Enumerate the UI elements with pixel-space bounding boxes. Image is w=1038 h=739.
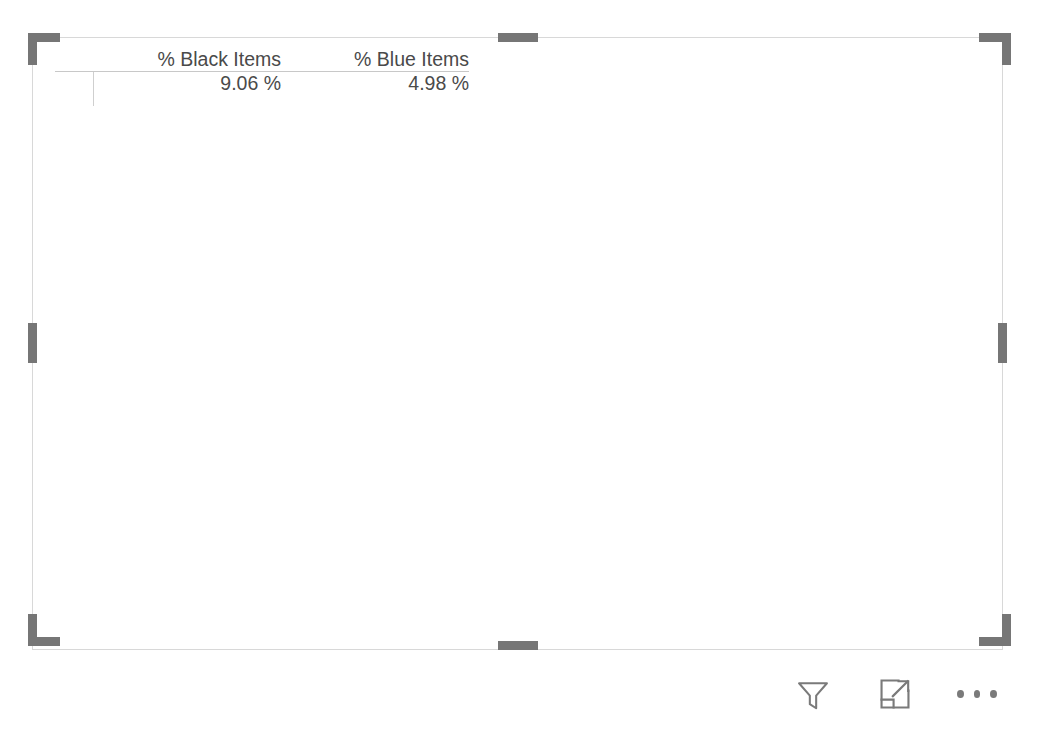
table-visual[interactable]: % Black Items % Blue Items 9.06 % 4.98 % [33,38,1002,649]
data-table: % Black Items % Blue Items 9.06 % 4.98 % [55,48,469,106]
resize-handle-bottom-left[interactable] [28,614,60,646]
cell-category [55,72,93,107]
resize-handle-middle-right[interactable] [998,323,1007,363]
handle-arm-vertical [28,33,37,65]
resize-handle-top-center[interactable] [498,33,538,42]
resize-handle-top-left[interactable] [28,33,60,65]
table-header: % Black Items % Blue Items [55,48,469,72]
ellipsis-dot [957,690,964,698]
column-header-category[interactable] [55,48,93,72]
table-row[interactable]: 9.06 % 4.98 % [55,72,469,107]
cell-blue-items: 4.98 % [281,72,469,107]
visual-footer-toolbar [755,663,1003,725]
filter-icon[interactable] [793,674,833,714]
cell-category-value [55,74,93,104]
column-header-blue-items[interactable]: % Blue Items [281,48,469,72]
handle-arm-vertical [1002,614,1011,646]
ellipsis-dot [990,690,997,698]
more-options-icon[interactable] [957,674,997,714]
table-visual-container[interactable]: % Black Items % Blue Items 9.06 % 4.98 % [32,37,1003,650]
ellipsis-dot [974,690,981,698]
handle-arm-vertical [1002,33,1011,65]
cell-black-items: 9.06 % [93,72,281,107]
table-header-row: % Black Items % Blue Items [55,48,469,72]
resize-handle-bottom-right[interactable] [979,614,1011,646]
focus-mode-icon[interactable] [875,674,915,714]
column-header-black-items[interactable]: % Black Items [93,48,281,72]
resize-handle-top-right[interactable] [979,33,1011,65]
handle-arm-vertical [28,614,37,646]
resize-handle-middle-left[interactable] [28,323,37,363]
resize-handle-bottom-center[interactable] [498,641,538,650]
table-body: 9.06 % 4.98 % [55,72,469,107]
